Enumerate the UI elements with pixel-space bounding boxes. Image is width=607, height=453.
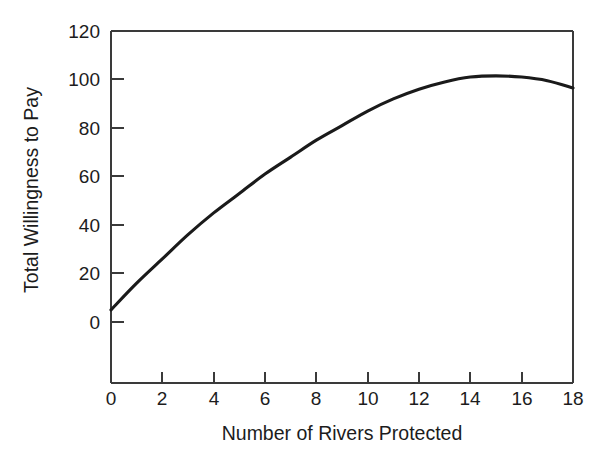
x-tick-label-12: 12	[408, 388, 429, 409]
plot-frame	[111, 31, 573, 383]
chart-canvas: 120 100 80 60 40 20 0 0 2 4 6 8 10 12 14…	[0, 0, 607, 453]
y-tick-label-120: 120	[68, 21, 100, 42]
y-axis-tick-labels: 120 100 80 60 40 20 0	[68, 21, 100, 333]
y-tick-label-100: 100	[68, 69, 100, 90]
y-axis-ticks	[111, 31, 124, 322]
data-series-line	[111, 76, 573, 310]
y-tick-label-80: 80	[79, 118, 100, 139]
x-axis-tick-labels: 0 2 4 6 8 10 12 14 16 18	[106, 388, 584, 409]
x-axis-title: Number of Rivers Protected	[222, 422, 463, 444]
x-tick-label-10: 10	[357, 388, 378, 409]
x-tick-label-14: 14	[459, 388, 481, 409]
y-axis-title: Total Willingness to Pay	[20, 87, 42, 293]
y-tick-label-0: 0	[89, 312, 100, 333]
y-tick-label-20: 20	[79, 263, 100, 284]
x-axis-ticks	[111, 372, 573, 383]
x-tick-label-16: 16	[511, 388, 532, 409]
x-tick-label-8: 8	[311, 388, 322, 409]
chart-figure: 120 100 80 60 40 20 0 0 2 4 6 8 10 12 14…	[0, 0, 607, 453]
x-tick-label-4: 4	[209, 388, 220, 409]
x-tick-label-18: 18	[562, 388, 583, 409]
y-tick-label-60: 60	[79, 166, 100, 187]
x-tick-label-2: 2	[157, 388, 168, 409]
y-tick-label-40: 40	[79, 215, 100, 236]
x-tick-label-6: 6	[260, 388, 271, 409]
x-tick-label-0: 0	[106, 388, 117, 409]
